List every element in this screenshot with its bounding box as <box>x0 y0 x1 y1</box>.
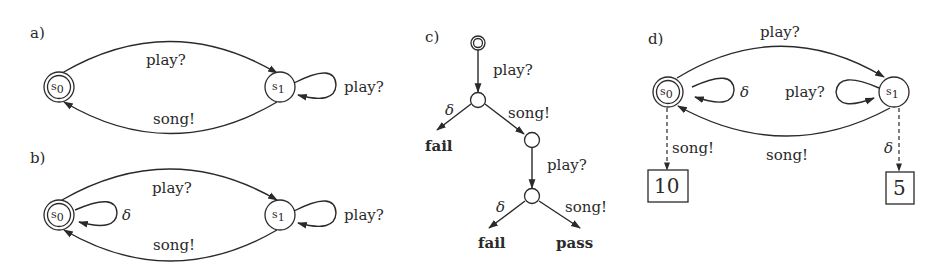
self-loop-s1-play <box>836 80 879 104</box>
edge-s0-s1-play <box>677 46 884 78</box>
self-loop-s1-play <box>294 73 336 98</box>
verdict-fail-2: fail <box>478 234 506 252</box>
panel-c: c) play? δ fail song! play? δ fail song!… <box>425 28 607 252</box>
state-s1: s1 <box>265 72 295 102</box>
edge-label-play-loop: play? <box>344 78 384 96</box>
edge-label-delta-2: δ <box>496 198 505 216</box>
test-node-1 <box>471 93 486 108</box>
state-s0: s0 <box>44 72 74 102</box>
edge-label-song-dashed: song! <box>672 139 714 157</box>
panel-d-label: d) <box>648 30 663 48</box>
panel-a-label: a) <box>30 24 45 42</box>
edge-label-delta: δ <box>740 83 749 101</box>
svg-text:10: 10 <box>654 174 679 198</box>
edge-label-song: song! <box>153 110 195 128</box>
verdict-fail-1: fail <box>425 137 453 155</box>
edge-label-play: play? <box>152 179 192 197</box>
edge-label-song: song! <box>766 146 808 164</box>
svg-text:5: 5 <box>893 176 906 200</box>
panel-b: b) play? song! δ play? s0 s1 <box>30 149 384 261</box>
test-root-node <box>471 36 485 50</box>
panel-a: a) play? song! play? s0 s1 <box>30 24 384 134</box>
reward-box-5: 5 <box>886 172 914 204</box>
edge-label-song: song! <box>153 236 195 254</box>
edge-label-play: play? <box>146 51 186 69</box>
reward-box-10: 10 <box>648 170 688 202</box>
panel-d: d) play? song! δ play? song! δ 10 5 s0 <box>648 23 914 204</box>
edge-label-play-loop: play? <box>785 83 825 101</box>
edge-label-song-1: song! <box>508 104 550 122</box>
self-loop-s0-delta <box>692 78 734 102</box>
edge-label-delta-1: δ <box>445 101 454 119</box>
edge-label-play-loop: play? <box>344 206 384 224</box>
test-node-2 <box>525 133 540 148</box>
edge-label-delta: δ <box>122 206 131 224</box>
edge-label-delta-dashed: δ <box>884 139 893 157</box>
state-s1: s1 <box>265 200 295 230</box>
self-loop-s0-delta <box>75 202 117 226</box>
edge-label-play: play? <box>760 23 800 41</box>
edge-s1-s0-song <box>678 106 890 136</box>
panel-b-label: b) <box>30 149 45 167</box>
edge-label-play-2: play? <box>547 156 587 174</box>
figure-canvas: a) play? song! play? s0 s1 b) play? song… <box>0 0 944 272</box>
verdict-pass: pass <box>556 234 593 252</box>
panel-c-label: c) <box>425 28 439 46</box>
edge-delta-fail-2 <box>489 201 525 228</box>
test-node-3 <box>525 189 540 204</box>
edge-label-song-2: song! <box>565 198 607 216</box>
state-s0: s0 <box>653 77 683 107</box>
self-loop-s1-play <box>294 201 336 226</box>
edge-label-play-1: play? <box>493 61 533 79</box>
state-s0: s0 <box>44 200 74 230</box>
state-s1: s1 <box>879 77 909 107</box>
